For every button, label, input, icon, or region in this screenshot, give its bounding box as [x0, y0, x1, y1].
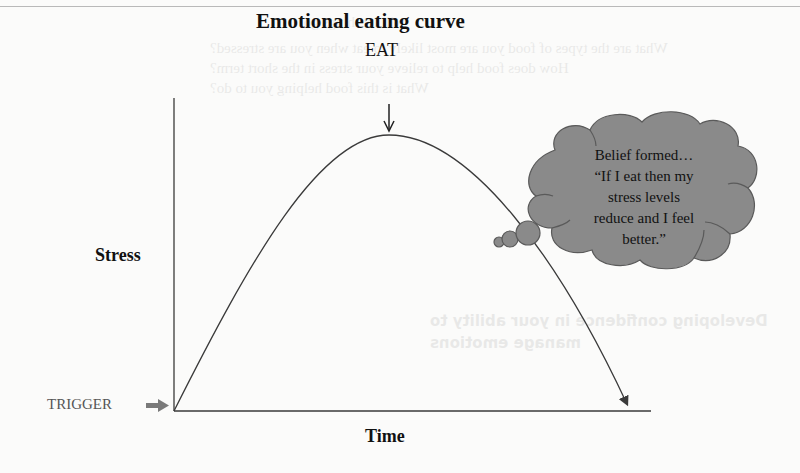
y-axis-label: Stress: [95, 245, 141, 266]
cloud-line: better.”: [555, 229, 733, 250]
cloud-line: stress levels: [555, 187, 733, 208]
cloud-line: reduce and I feel: [555, 208, 733, 229]
x-axis-label: Time: [365, 426, 405, 447]
cloud-line: Belief formed…: [555, 145, 733, 166]
thought-bubble-large: [516, 221, 540, 245]
trigger-label: TRIGGER: [47, 396, 112, 413]
eat-down-arrow-icon: [384, 104, 394, 131]
trigger-arrow-icon: [146, 399, 169, 412]
thought-cloud-text: Belief formed… “If I eat then my stress …: [555, 145, 733, 250]
eat-label: EAT: [365, 40, 398, 61]
cloud-line: “If I eat then my: [555, 166, 733, 187]
